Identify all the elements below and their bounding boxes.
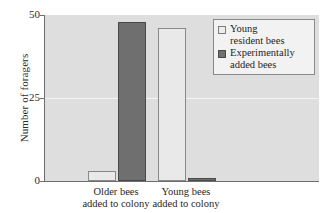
- x-axis-group-label-young-bees: Young bees added to colony: [131, 186, 241, 210]
- bar-group-1-series-0: [158, 28, 186, 181]
- legend-swatch-icon-dark: [218, 50, 226, 58]
- y-tick-label-25: 25: [18, 91, 40, 103]
- legend-item-experimentally-added-bees: Experimentally added bees: [218, 47, 309, 70]
- y-tick-label-0: 0: [18, 174, 40, 186]
- legend-swatch-icon-light: [218, 26, 226, 34]
- bar-chart-figure: Number of foragers 50 25 0 Young residen…: [0, 0, 334, 213]
- bar-group-0-series-1: [118, 22, 146, 181]
- legend-label-young-resident-bees: Young resident bees: [230, 23, 285, 46]
- legend: Young resident bees Experimentally added…: [213, 19, 315, 75]
- bar-group-0-series-0: [88, 171, 116, 181]
- plot-area: Young resident bees Experimentally added…: [44, 15, 319, 182]
- bar-group-1-series-1: [188, 178, 216, 181]
- y-axis-ticks: 50 25 0: [14, 0, 40, 213]
- legend-item-young-resident-bees: Young resident bees: [218, 23, 309, 46]
- y-tick-label-50: 50: [18, 8, 40, 20]
- legend-label-experimentally-added-bees: Experimentally added bees: [230, 47, 295, 70]
